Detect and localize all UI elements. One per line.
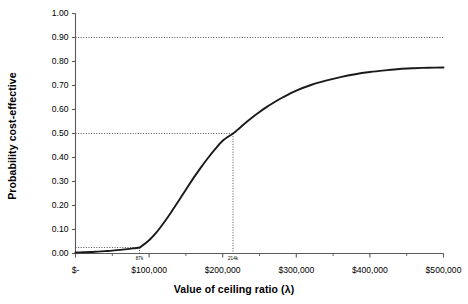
y-tick-label: 1.00 [35,8,69,18]
annotation-label-lower-threshold: 87k [125,256,155,261]
x-tick-label: $500,000 [409,265,468,275]
y-tick-label: 0.90 [35,32,69,42]
y-tick-label: 0.80 [35,56,69,66]
axis-tick-marks [72,14,444,258]
y-tick-label: 0.60 [35,104,69,114]
x-tick-label: $100,000 [114,265,184,275]
y-axis-title: Probability cost-effective [6,61,18,211]
y-tick-label: 0.00 [35,248,69,258]
y-tick-label: 0.40 [35,152,69,162]
y-tick-label: 0.70 [35,80,69,90]
x-tick-label: $200,000 [188,265,258,275]
x-tick-label: $300,000 [261,265,331,275]
y-tick-label: 0.20 [35,200,69,210]
y-tick-label: 0.10 [35,224,69,234]
x-axis-title: Value of ceiling ratio (λ) [0,283,468,295]
cost-effectiveness-acceptability-curve-figure: 0.000.100.200.300.400.500.600.700.800.90… [0,0,468,304]
data-series-lines [76,68,444,253]
y-tick-label: 0.50 [35,128,69,138]
x-tick-label: $- [41,265,111,275]
y-tick-label: 0.30 [35,176,69,186]
annotation-label-median-threshold: 214k [218,256,248,261]
series-line [76,68,444,253]
x-tick-label: $400,000 [335,265,405,275]
